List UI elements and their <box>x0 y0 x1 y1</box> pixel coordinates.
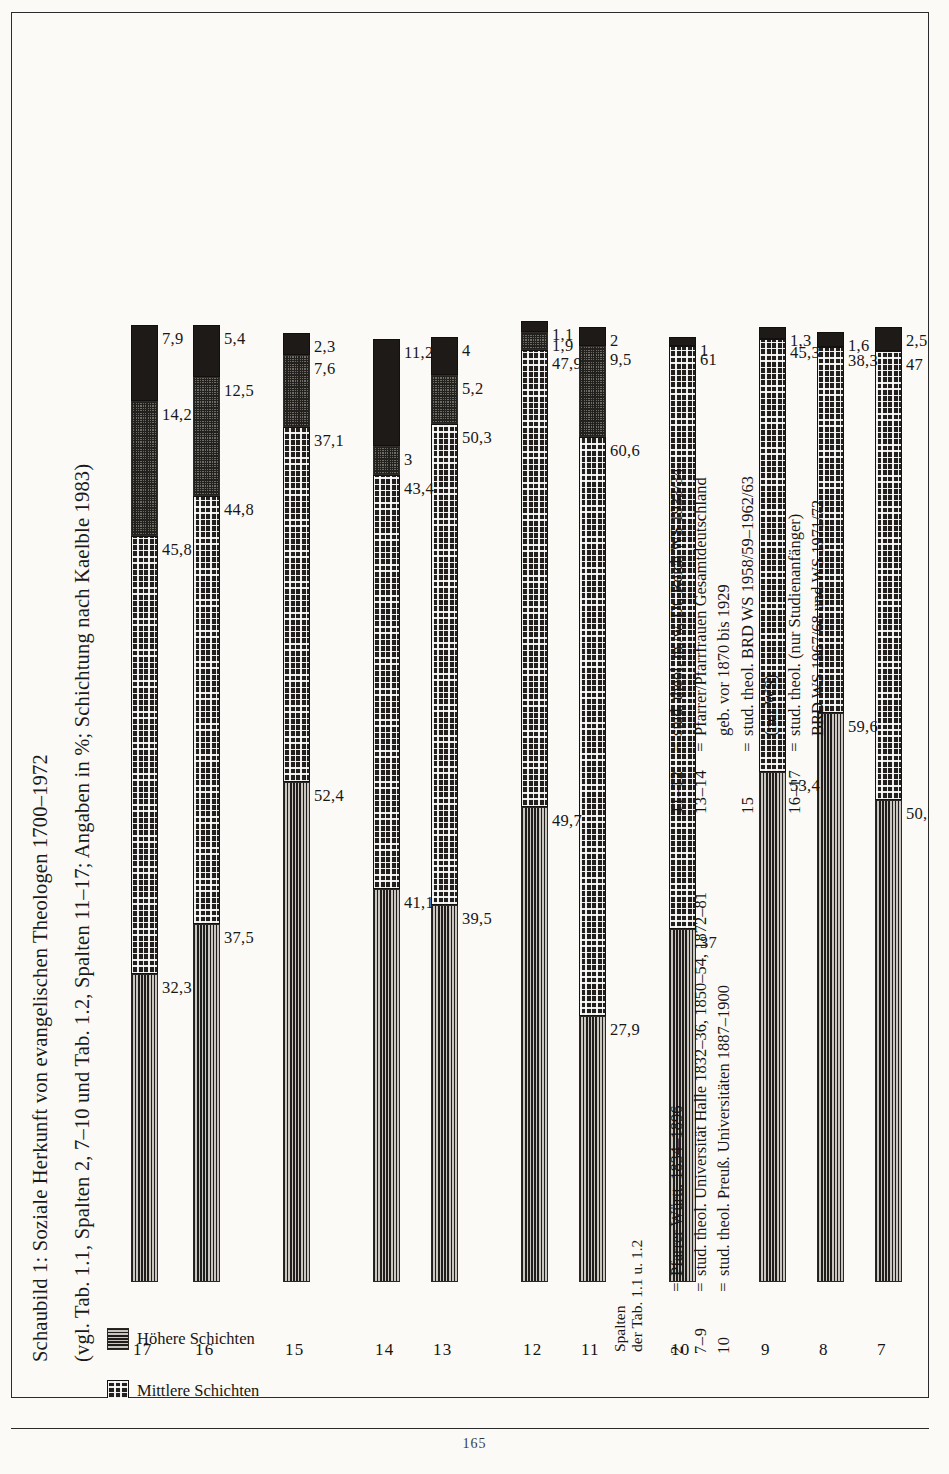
column-number-label: 13 <box>433 1340 452 1360</box>
bar-value-label: 52,4 <box>314 786 344 806</box>
bar-value-label: 60,6 <box>610 441 640 461</box>
bar-segment <box>431 424 458 904</box>
footnote-value: stud. theol. Universität Halle 1832–36, … <box>689 892 713 1276</box>
bar-value-label: 3 <box>404 450 413 470</box>
bar-segment <box>431 337 458 375</box>
footnote-continuation: geb. vor 1870 bis 1929 <box>712 468 736 814</box>
footnote-key: 15 <box>736 758 760 814</box>
legend-swatch-horizontal-lines-icon <box>107 1328 129 1350</box>
figure-subtitle: (vgl. Tab. 1.1, Spalten 2, 7–10 und Tab.… <box>71 464 94 1362</box>
footnote-value: stud. theol. Preuß. Universitäten 1887–1… <box>712 985 736 1276</box>
footnote-value: Pfarrer/Pfarrfrauen Gesamtdeutschland <box>689 477 713 736</box>
bar-value-label: 49,7 <box>552 811 582 831</box>
bar-segment <box>131 401 158 537</box>
bar-value-label: 1,6 <box>848 336 870 356</box>
bar-value-label: 11,2 <box>404 343 433 363</box>
chart-plot-area: 49,547,22250,5472,5759,638,31,6853,445,3… <box>131 247 561 1282</box>
bar-segment <box>875 351 902 800</box>
footnote-equals: = <box>783 736 807 758</box>
bar-value-label: 7,6 <box>314 359 336 379</box>
bar-value-label: 50,5 <box>906 804 929 824</box>
footnote-key: 10 <box>712 1298 736 1354</box>
bar-segment <box>579 1016 606 1282</box>
bar-value-label: 47,9 <box>552 354 582 374</box>
footnote-continuation: BRD WS 1967/68 und WS 1971/72 <box>806 468 830 814</box>
footnote-row: 10=stud. theol. Preuß. Universitäten 188… <box>712 892 736 1354</box>
rotated-figure-inner: Schaubild 1: Soziale Herkunft von evange… <box>11 12 929 1398</box>
spalten-header-line1: Spalten <box>611 1306 628 1353</box>
footnote-value: stud. theol. BRD WS 1958/59–1962/63 <box>736 476 760 736</box>
bar-segment <box>875 327 902 351</box>
bar-value-label: 59,6 <box>848 717 878 737</box>
column-number-label: 7 <box>877 1340 887 1360</box>
bar-segment <box>373 890 400 1283</box>
bar-segment <box>131 536 158 973</box>
column-number-label: 16 <box>195 1340 214 1360</box>
footnote-row: 7–9=stud. theol. Universität Halle 1832–… <box>689 892 713 1354</box>
bar-segment <box>283 782 310 1282</box>
bar-value-label: 9,5 <box>610 350 632 370</box>
bar-value-label: 14,2 <box>162 405 192 425</box>
bar-value-label: 39,5 <box>462 909 492 929</box>
bar-segment <box>131 325 158 400</box>
bar-value-label: 1,3 <box>790 331 812 351</box>
bar-value-label: 50,3 <box>462 428 492 448</box>
footnote-row: 15=stud. theol. BRD WS 1958/59–1962/63 <box>736 468 760 814</box>
column-number-label: 8 <box>819 1340 829 1360</box>
bar-value-label: 5,2 <box>462 379 484 399</box>
column-number-label: 14 <box>375 1340 394 1360</box>
bar-value-label: 37,1 <box>314 431 344 451</box>
bar-value-label: 44,8 <box>224 500 254 520</box>
bar-segment <box>193 325 220 377</box>
footnote-key: 16–17 <box>783 758 807 814</box>
spalten-header-line2: der Tab. 1.1 u. 1.2 <box>628 1240 645 1352</box>
footnote-value: stud. theol. (nur Studienanfänger) <box>783 514 807 736</box>
bar-value-label: 2,5 <box>906 331 928 351</box>
bar-value-label: 45,8 <box>162 540 192 560</box>
bar-value-label: 2,3 <box>314 337 336 357</box>
column-number-label: 11 <box>581 1340 600 1360</box>
bar-value-label: 41,1 <box>404 894 434 914</box>
bar-value-label: 1 <box>700 341 709 361</box>
column-number-label: 15 <box>285 1340 304 1360</box>
footnote-key: 13–14 <box>689 758 713 814</box>
bar-value-label: 1,1 <box>552 325 574 345</box>
page-canvas: 165 Schaubild 1: Soziale Herkunft von ev… <box>0 0 949 1474</box>
footnote-equals: = <box>665 1276 689 1298</box>
bar-value-label: 2 <box>610 331 619 351</box>
footnote-equals: = <box>712 1276 736 1298</box>
bar-value-label: 12,5 <box>224 381 254 401</box>
bar-segment <box>669 337 696 347</box>
bar-segment <box>431 905 458 1282</box>
bar-segment <box>759 772 786 1282</box>
bar-segment <box>521 350 548 807</box>
column-number-label: 9 <box>761 1340 771 1360</box>
footnote-value: stud. theol. m./w. Dt. Reich WS 1933/34 <box>665 468 689 736</box>
footnote-equals: = <box>736 736 760 758</box>
footnote-row: 2=Pfarrer Württ. 1834–1896 <box>665 892 689 1354</box>
bar-value-label: 4 <box>462 341 471 361</box>
bar-segment <box>131 974 158 1282</box>
bar-segment <box>579 327 606 346</box>
bar-segment <box>817 332 844 347</box>
legend-label: Mittlere Schichten <box>137 1381 259 1398</box>
bar-value-label: 27,9 <box>610 1020 640 1040</box>
bar-value-label: 43,4 <box>404 479 434 499</box>
footnote-key: 11–12 <box>665 758 689 814</box>
bar-value-label: 32,3 <box>162 978 192 998</box>
legend-swatch-dot-grid-icon <box>107 1380 129 1398</box>
rotated-figure-stage: Schaubild 1: Soziale Herkunft von evange… <box>11 12 929 1398</box>
bar-segment <box>283 333 310 355</box>
bar-segment <box>283 355 310 428</box>
bar-segment <box>521 807 548 1282</box>
bar-segment <box>579 346 606 437</box>
bar-segment <box>521 332 548 350</box>
bar-segment <box>579 437 606 1016</box>
bar-segment <box>373 446 400 475</box>
bar-segment <box>431 375 458 425</box>
bar-value-label: 47 <box>906 355 923 375</box>
bar-segment <box>283 427 310 781</box>
footnote-equals: = <box>689 736 713 758</box>
bar-segment <box>521 321 548 332</box>
footnote-row: 13–14=Pfarrer/Pfarrfrauen Gesamtdeutschl… <box>689 468 713 814</box>
